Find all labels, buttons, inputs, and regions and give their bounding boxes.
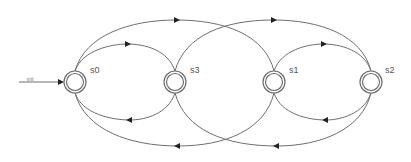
- arrowhead-icon: [321, 41, 327, 47]
- state-label-s1: s1: [289, 65, 299, 75]
- state-s1: [263, 71, 285, 93]
- initial-label: init: [27, 74, 33, 84]
- state-label-s2: s2: [385, 65, 395, 75]
- edge-s2-s1: [274, 93, 371, 120]
- arrowhead-icon: [125, 41, 131, 47]
- arrowhead-icon: [174, 143, 180, 149]
- arrowhead-icon: [322, 117, 328, 123]
- arrowhead-icon: [58, 79, 64, 85]
- edge-s3-s2: [175, 20, 371, 71]
- state-diagram-canvas: [0, 0, 411, 162]
- state-s3: [164, 71, 186, 93]
- arrowhead-icon: [271, 17, 277, 23]
- edge-s1-s0: [75, 93, 274, 146]
- initial-transition: [19, 79, 64, 85]
- edge-s2-s3: [175, 93, 371, 146]
- edge-s3-s0: [75, 93, 175, 120]
- state-label-s3: s3: [190, 65, 200, 75]
- state-label-s0: s0: [90, 65, 100, 75]
- state-s2: [360, 71, 382, 93]
- arrowhead-icon: [174, 17, 180, 23]
- state-s0: [64, 71, 86, 93]
- arrowhead-icon: [273, 143, 279, 149]
- edge-s0-s1: [75, 20, 274, 71]
- arrowhead-icon: [126, 117, 132, 123]
